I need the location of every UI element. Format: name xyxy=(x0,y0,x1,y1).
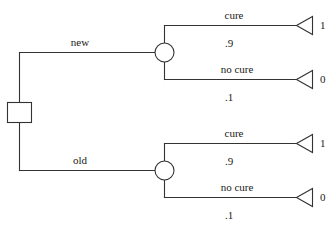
branch-label-new: new xyxy=(71,37,89,48)
probability-label-new-cure: .9 xyxy=(225,38,233,49)
terminal-node-old-nocure xyxy=(297,189,313,207)
terminal-node-new-cure xyxy=(297,17,313,35)
probability-label-old-nocure: .1 xyxy=(225,210,233,221)
outcome-label-old-nocure: no cure xyxy=(221,182,254,193)
terminal-node-new-nocure xyxy=(297,71,313,89)
payoff-old-cure: 1 xyxy=(320,138,326,149)
chance-node-old-circle xyxy=(155,161,174,180)
tree-graphics xyxy=(0,0,336,231)
decision-tree-diagram: new old cure .9 1 no cure .1 0 cure .9 1… xyxy=(0,0,336,231)
outcome-label-new-nocure: no cure xyxy=(221,64,254,75)
branch-label-old: old xyxy=(73,155,87,166)
decision-node-square xyxy=(8,103,32,123)
outcome-label-old-cure: cure xyxy=(225,128,244,139)
terminal-node-old-cure xyxy=(297,135,313,153)
probability-label-new-nocure: .1 xyxy=(225,92,233,103)
outcome-label-new-cure: cure xyxy=(225,10,244,21)
chance-node-new-circle xyxy=(155,43,174,62)
probability-label-old-cure: .9 xyxy=(225,156,233,167)
payoff-new-cure: 1 xyxy=(320,20,326,31)
payoff-new-nocure: 0 xyxy=(320,74,326,85)
payoff-old-nocure: 0 xyxy=(320,192,326,203)
